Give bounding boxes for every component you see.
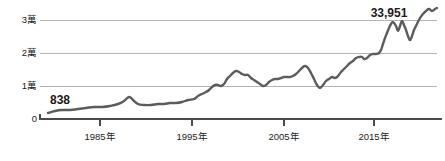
y-tick-label-30000: 3萬 — [22, 14, 37, 25]
chart-canvas: 01萬2萬3萬 1985年1995年2005年2015年 838 33,951 — [0, 0, 445, 161]
y-tick-label-20000: 2萬 — [22, 47, 37, 58]
x-tick-label-1995: 1995年 — [176, 131, 207, 142]
x-tick-label-1985: 1985年 — [84, 131, 115, 142]
start-value-annotation: 838 — [50, 93, 70, 107]
end-value-annotation: 33,951 — [371, 6, 408, 20]
x-tick-label-2005: 2005年 — [268, 131, 299, 142]
y-tick-label-10000: 1萬 — [22, 80, 37, 91]
y-tick-label-0: 0 — [32, 113, 37, 124]
line-chart-figure: 01萬2萬3萬 1985年1995年2005年2015年 838 33,951 — [0, 0, 445, 161]
x-tick-label-2015: 2015年 — [358, 131, 389, 142]
